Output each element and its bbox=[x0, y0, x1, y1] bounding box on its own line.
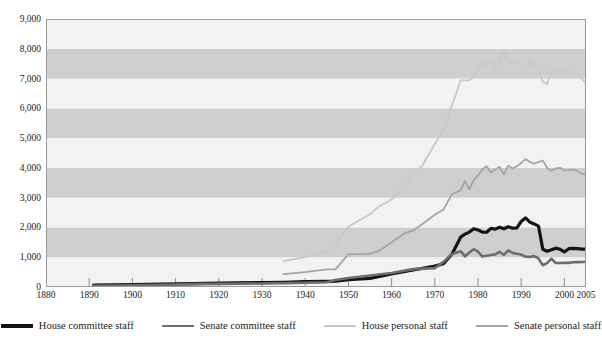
y-axis-tick-label: 2,000 bbox=[20, 222, 41, 232]
x-axis-tick-label: 1980 bbox=[469, 290, 488, 301]
y-axis-tick-label: 5,000 bbox=[20, 133, 41, 143]
band bbox=[46, 108, 586, 138]
band bbox=[46, 79, 586, 109]
figure-root: 9,0008,0007,0006,0005,0004,0003,0002,000… bbox=[0, 0, 602, 340]
y-axis-tick-label: 6,000 bbox=[20, 103, 41, 113]
x-axis-tick-label: 1960 bbox=[382, 290, 401, 301]
legend-label: Senate committee staff bbox=[200, 320, 296, 332]
y-axis-tick-label: 1,000 bbox=[20, 252, 41, 262]
figure-title-ghost bbox=[40, 0, 300, 4]
x-axis-tick-label: 2000 bbox=[555, 290, 574, 301]
legend-item[interactable]: House personal staff bbox=[324, 320, 448, 332]
x-axis-tick-label: 1900 bbox=[123, 290, 142, 301]
x-axis-tick-label: 1950 bbox=[339, 290, 358, 301]
x-axis-labels: 1880189019001910192019301940195019601970… bbox=[46, 290, 586, 304]
x-axis-tick-label: 1930 bbox=[253, 290, 272, 301]
plot-area bbox=[46, 19, 586, 287]
x-axis-tick-label: 1940 bbox=[296, 290, 315, 301]
x-axis-tick-label: 2005 bbox=[577, 290, 596, 301]
band bbox=[46, 198, 586, 228]
y-axis-tick-label: 8,000 bbox=[20, 44, 41, 54]
y-axis-tick-label: 3,000 bbox=[20, 193, 41, 203]
band bbox=[46, 19, 586, 49]
x-axis-tick-label: 1920 bbox=[209, 290, 228, 301]
legend-item[interactable]: Senate personal staff bbox=[476, 320, 601, 332]
y-axis-tick-label: 9,000 bbox=[20, 14, 41, 24]
y-axis-labels: 9,0008,0007,0006,0005,0004,0003,0002,000… bbox=[0, 19, 41, 287]
x-axis-tick-label: 1910 bbox=[166, 290, 185, 301]
x-axis-tick-label: 1880 bbox=[37, 290, 56, 301]
legend-divider bbox=[0, 309, 602, 310]
background-bands bbox=[46, 19, 586, 287]
chart-legend: House committee staffSenate committee st… bbox=[0, 316, 602, 336]
x-axis-tick-label: 1990 bbox=[512, 290, 531, 301]
x-axis-tick-label: 1970 bbox=[425, 290, 444, 301]
y-axis-tick-label: 4,000 bbox=[20, 163, 41, 173]
legend-line-swatch bbox=[324, 325, 356, 327]
legend-label: Senate personal staff bbox=[514, 320, 601, 332]
legend-item[interactable]: Senate committee staff bbox=[162, 320, 296, 332]
y-axis-tick-label: 7,000 bbox=[20, 74, 41, 84]
x-axis-tick-label: 1890 bbox=[80, 290, 99, 301]
chart-canvas bbox=[46, 19, 586, 287]
band bbox=[46, 138, 586, 168]
legend-label: House committee staff bbox=[39, 320, 134, 332]
legend-line-swatch bbox=[1, 324, 33, 327]
legend-line-swatch bbox=[476, 325, 508, 327]
legend-item[interactable]: House committee staff bbox=[1, 320, 134, 332]
legend-line-swatch bbox=[162, 325, 194, 328]
legend-label: House personal staff bbox=[362, 320, 448, 332]
